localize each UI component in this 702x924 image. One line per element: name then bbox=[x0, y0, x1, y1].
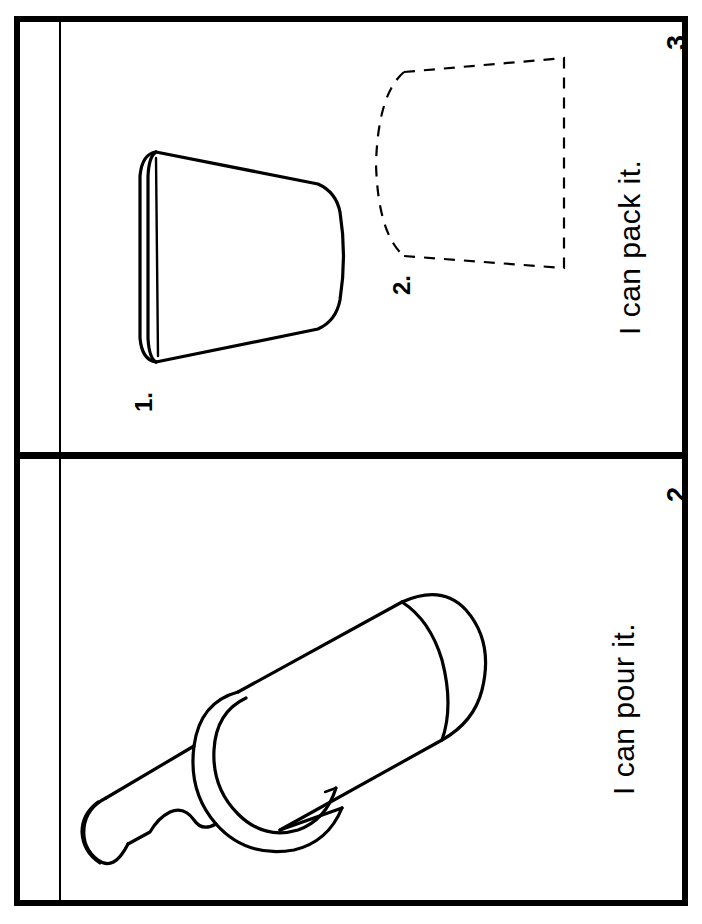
page-2-drawing-stage bbox=[61, 459, 682, 900]
step-marker-1: 1. bbox=[130, 392, 158, 412]
booklet-page-3 bbox=[20, 22, 682, 452]
page-divider bbox=[14, 452, 688, 459]
booklet-page-2 bbox=[20, 459, 682, 900]
page-number-3: 3 bbox=[662, 35, 693, 50]
page-3-drawing-stage bbox=[61, 22, 682, 452]
page-3-caption: I can pack it. bbox=[613, 160, 647, 335]
page-2-caption: I can pour it. bbox=[607, 623, 641, 795]
step-marker-2: 2. bbox=[388, 275, 416, 295]
page-number-2: 2 bbox=[662, 487, 693, 502]
worksheet-sheet: 1. 2. I can pack it. 3 bbox=[0, 0, 702, 924]
